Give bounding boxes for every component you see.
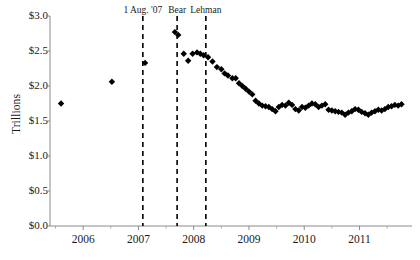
data-point xyxy=(109,79,115,85)
data-point xyxy=(181,51,187,57)
plot-area xyxy=(0,0,420,260)
axis-tick-marks xyxy=(46,16,387,230)
event-vertical-lines xyxy=(143,16,206,226)
data-point-markers xyxy=(58,29,405,118)
chart-container: Trillions $0.0$0.5$1.0$1.5$2.0$2.5$3.0 2… xyxy=(0,0,420,260)
data-point xyxy=(185,58,191,64)
data-point xyxy=(233,75,239,81)
axis-lines xyxy=(50,16,412,226)
data-point xyxy=(58,100,64,106)
data-point xyxy=(209,58,215,64)
